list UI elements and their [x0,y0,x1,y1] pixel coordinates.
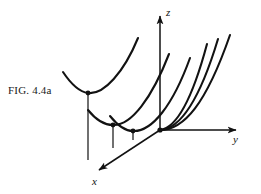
figure-root: FIG. 4.4a z y x [0,0,261,194]
x-axis-label: x [91,175,97,187]
vertex-dot-1 [86,91,91,96]
axis-labels-group: z y x [91,6,238,187]
y-axis-label: y [232,133,238,145]
vertex-dot-4 [157,127,162,132]
parabola-family-diagram: z y x [0,0,261,194]
figure-caption: FIG. 4.4a [8,84,52,96]
parabola-curve-1 [63,38,138,93]
vertex-dots-group [86,91,163,134]
figure-caption-text: FIG. 4.4a [8,84,52,96]
x-axis-line [99,130,160,170]
z-axis-label: z [165,6,171,18]
vertex-dot-3 [131,129,136,134]
drop-lines-group [88,93,133,160]
axes-group [99,16,236,170]
vertex-dot-2 [111,123,116,128]
